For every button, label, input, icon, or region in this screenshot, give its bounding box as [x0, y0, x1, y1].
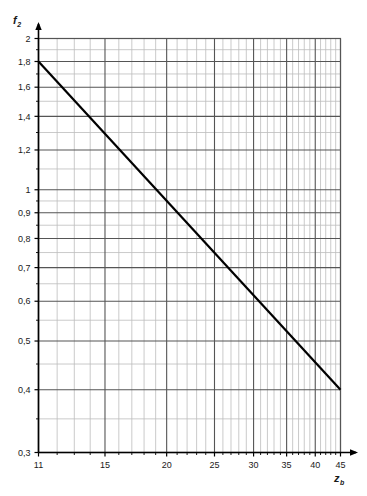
y-axis-tick-label: 1,4	[18, 112, 31, 122]
chart-background-layer	[0, 0, 367, 496]
y-axis-tick-label: 1,2	[18, 145, 31, 155]
x-axis-title-subscript: b	[340, 479, 345, 486]
chart-container: 21,81,61,41,210,90,80,70,60,50,40,3 1115…	[0, 0, 367, 496]
y-axis-tick-label: 1,6	[18, 82, 31, 92]
y-axis-tick-label: 0,5	[18, 336, 31, 346]
x-axis-tick-label: 35	[282, 460, 292, 470]
y-axis-tick-label: 0,7	[18, 263, 31, 273]
x-axis-tick-label: 45	[335, 460, 345, 470]
x-axis-tick-label: 40	[310, 460, 320, 470]
y-axis-tick-label: 0,6	[18, 296, 31, 306]
y-axis-title-subscript: 2	[16, 21, 21, 28]
y-axis-tick-label: 1	[25, 185, 30, 195]
y-axis-tick-label: 1,8	[18, 57, 31, 67]
x-axis-tick-label: 20	[162, 460, 172, 470]
y-axis-tick-label: 0,8	[18, 234, 31, 244]
y-axis-tick-label: 2	[25, 34, 30, 44]
x-axis-tick-label: 30	[249, 460, 259, 470]
chart-svg: 21,81,61,41,210,90,80,70,60,50,40,3 1115…	[0, 0, 367, 496]
y-axis-tick-label: 0,4	[18, 385, 31, 395]
chart-background	[0, 0, 367, 496]
x-axis-tick-label: 11	[34, 460, 43, 470]
y-axis-tick-label: 0,3	[18, 448, 31, 458]
y-axis-tick-label: 0,9	[18, 208, 31, 218]
x-axis-tick-label: 15	[100, 460, 110, 470]
x-axis-tick-label: 25	[209, 460, 219, 470]
